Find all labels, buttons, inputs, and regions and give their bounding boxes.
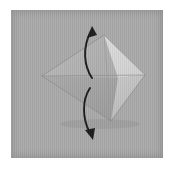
origami-diagram-svg: [11, 10, 163, 158]
photo-area: [11, 10, 163, 158]
model-shadow: [60, 119, 140, 129]
origami-figure-root: [0, 0, 174, 169]
